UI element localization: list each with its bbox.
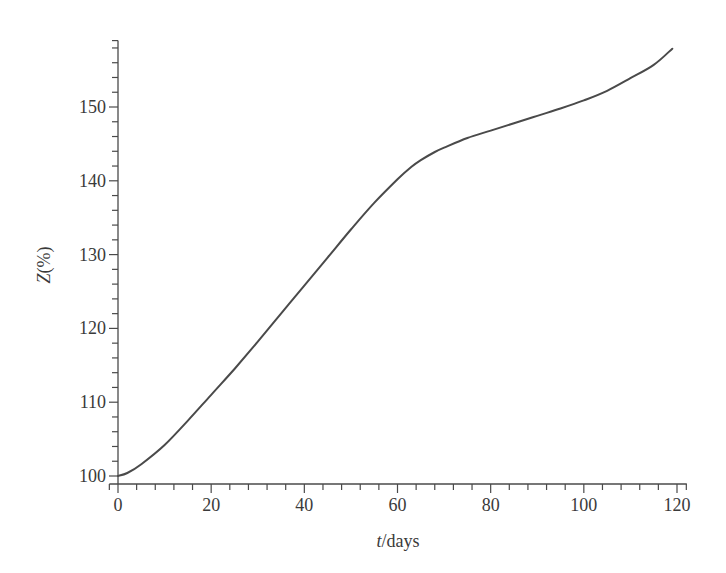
series-line-z [118, 49, 672, 476]
y-tick-label: 140 [79, 171, 106, 191]
x-tick-label: 0 [114, 495, 123, 515]
x-axis: 020406080100120 [109, 484, 690, 515]
y-tick-label: 130 [79, 245, 106, 265]
y-tick-label: 150 [79, 97, 106, 117]
y-tick-label: 120 [79, 318, 106, 338]
x-tick-label: 20 [202, 495, 220, 515]
x-tick-label: 120 [664, 495, 691, 515]
x-tick-label: 40 [295, 495, 313, 515]
y-axis-label-unit: (%) [34, 246, 55, 273]
x-tick-label: 80 [482, 495, 500, 515]
y-tick-label: 100 [79, 466, 106, 486]
y-tick-label: 110 [80, 392, 106, 412]
x-tick-label: 100 [570, 495, 597, 515]
x-tick-label: 60 [389, 495, 407, 515]
y-axis-label: Z(%) [34, 246, 55, 283]
y-axis: 100110120130140150 [79, 41, 118, 486]
x-axis-label: t/days [376, 531, 419, 551]
plot-area [118, 49, 672, 476]
x-axis-label-unit: /days [382, 531, 420, 551]
line-chart: 100110120130140150 020406080100120 t/day… [0, 0, 726, 573]
